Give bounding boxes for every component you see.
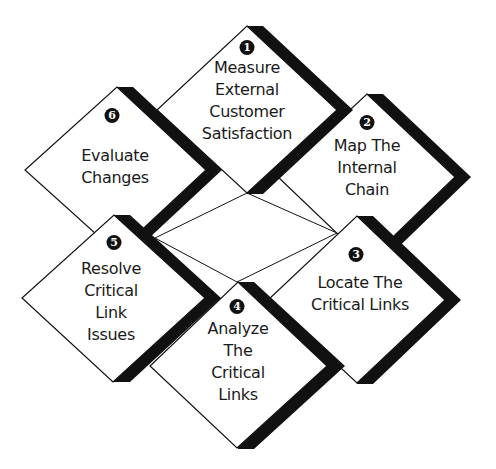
step-1-number-badge: 1 xyxy=(240,40,255,55)
step-6-label: Evaluate Changes xyxy=(81,145,149,189)
step-2-number-badge: 2 xyxy=(360,115,375,130)
step-1-label: Measure External Customer Satisfaction xyxy=(202,57,292,145)
step-3-number-badge: 3 xyxy=(349,247,364,262)
step-5-number-badge: 5 xyxy=(107,235,122,250)
step-2-label: Map The Internal Chain xyxy=(334,135,401,201)
step-4-label: Analyze The Critical Links xyxy=(208,318,269,406)
step-3-label: Locate The Critical Links xyxy=(311,272,409,316)
step-4-number-badge: 4 xyxy=(230,299,245,314)
step-6-number-badge: 6 xyxy=(105,108,120,123)
step-5-label: Resolve Critical Link Issues xyxy=(81,258,141,346)
